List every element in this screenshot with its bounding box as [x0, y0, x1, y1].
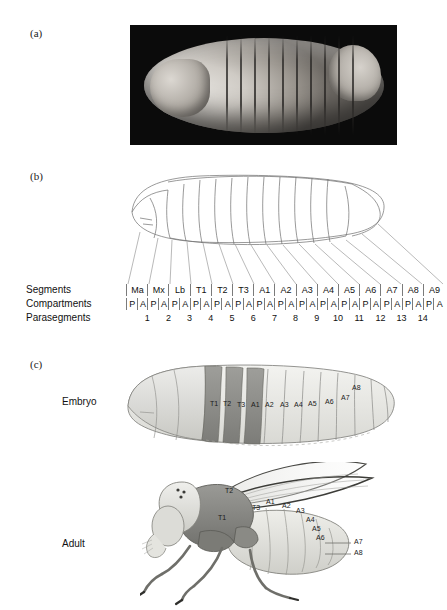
- segment-furrow-sem: [352, 35, 354, 136]
- segment-furrow-sem: [310, 35, 312, 136]
- embryo-segment-tag-a2: A2: [265, 401, 274, 408]
- segment-cell-a9: A9: [423, 284, 445, 296]
- parasegment-cell-9: 9: [306, 312, 327, 324]
- parasegment-cell-6: 6: [243, 312, 264, 324]
- embryo-shaded-diagram: [110, 358, 410, 458]
- embryo-row-label: Embryo: [62, 396, 96, 407]
- segment-cell-t1: T1: [190, 284, 212, 296]
- parasegment-cell-2: 2: [158, 312, 179, 324]
- row-label-parasegments: Parasegments: [26, 312, 90, 323]
- segment-cell-t3: T3: [232, 284, 254, 296]
- segment-cell-a2: A2: [274, 284, 296, 296]
- embryo-tail-lobe-sem: [329, 45, 381, 101]
- segment-furrow-sem: [254, 35, 256, 136]
- segment-cell-a4: A4: [317, 284, 339, 296]
- segment-grid: MaMxLbT1T2T3A1A2A3A4A5A6A7A8A9PAPAPAPAPA…: [126, 284, 444, 328]
- segment-cell-a5: A5: [338, 284, 360, 296]
- adult-fly-diagram: [140, 462, 420, 607]
- segment-cell-a7: A7: [380, 284, 402, 296]
- adult-segment-tag-a3: A3: [296, 507, 305, 514]
- adult-segment-tag-t1: T1: [218, 514, 226, 521]
- parasegment-cell-7: 7: [264, 312, 285, 324]
- embryo-segment-tag-t1: T1: [210, 400, 218, 407]
- segment-cell-a1: A1: [253, 284, 275, 296]
- parasegment-cell-12: 12: [370, 312, 391, 324]
- embryo-head-lobe-sem: [150, 59, 210, 117]
- embryo-sem-micrograph: [130, 25, 397, 145]
- adult-callout-a8: A8: [354, 549, 363, 556]
- parasegment-cell-1: 1: [137, 312, 158, 324]
- adult-segment-tag-a5: A5: [312, 525, 321, 532]
- segment-cell-a6: A6: [359, 284, 381, 296]
- segment-cell-t2: T2: [211, 284, 233, 296]
- row-label-compartments: Compartments: [26, 298, 92, 309]
- parasegment-cell-5: 5: [221, 312, 242, 324]
- segment-cell-lb: Lb: [168, 284, 190, 296]
- adult-row-label: Adult: [62, 538, 85, 549]
- segment-compartment-table: Segments Compartments Parasegments MaMxL…: [0, 284, 447, 336]
- parasegment-cell-8: 8: [285, 312, 306, 324]
- segment-furrow-sem: [226, 35, 228, 136]
- adult-segment-tag-t3: T3: [252, 504, 260, 511]
- adult-segment-tag-a6: A6: [316, 534, 325, 541]
- adult-segment-tag-a1: A1: [266, 498, 275, 505]
- segment-furrow-sem: [324, 35, 326, 136]
- segment-furrow-sem: [268, 35, 270, 136]
- parasegment-cell-4: 4: [200, 312, 221, 324]
- segment-furrow-sem: [240, 35, 242, 136]
- segment-furrow-sem: [338, 35, 340, 136]
- embryo-segment-tag-a8: A8: [352, 384, 361, 391]
- compartment-cell-a-29: A: [433, 298, 445, 310]
- panel-a-label: (a): [30, 27, 42, 39]
- segment-furrow-sem: [296, 35, 298, 136]
- segment-cell-mx: Mx: [147, 284, 169, 296]
- parasegment-cell-14: 14: [412, 312, 433, 324]
- embryo-segment-tag-t3: T3: [237, 401, 245, 408]
- adult-segment-tag-a2: A2: [282, 502, 291, 509]
- embryo-segment-tag-t2: T2: [223, 400, 231, 407]
- embryo-segment-tag-a4: A4: [294, 401, 303, 408]
- segment-cell-a8: A8: [402, 284, 424, 296]
- adult-segment-tag-t2: T2: [225, 487, 233, 494]
- embryo-segment-tag-a1: A1: [251, 401, 260, 408]
- parasegment-cell-11: 11: [349, 312, 370, 324]
- parasegment-cell-13: 13: [391, 312, 412, 324]
- segment-cell-ma: Ma: [126, 284, 148, 296]
- embryo-segment-tag-a7: A7: [341, 394, 350, 401]
- parasegment-cell-3: 3: [179, 312, 200, 324]
- parasegment-cell-10: 10: [327, 312, 348, 324]
- embryo-segment-tag-a3: A3: [280, 401, 289, 408]
- segment-furrow-sem: [282, 35, 284, 136]
- embryo-segment-tag-a5: A5: [308, 400, 317, 407]
- embryo-segment-tag-a6: A6: [325, 398, 334, 405]
- embryo-line-drawing: [0, 168, 447, 286]
- row-label-segments: Segments: [26, 284, 71, 295]
- adult-callout-a7: A7: [354, 538, 363, 545]
- segment-cell-a3: A3: [296, 284, 318, 296]
- adult-segment-tag-a4: A4: [306, 516, 315, 523]
